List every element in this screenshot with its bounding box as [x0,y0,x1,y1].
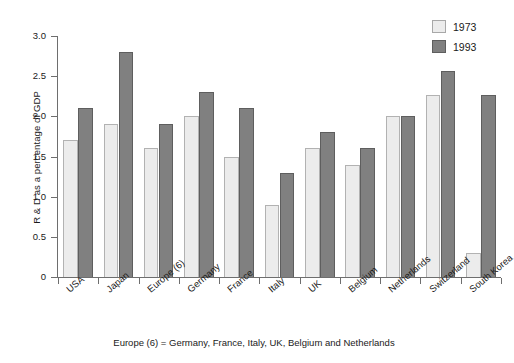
footnote: Europe (6) = Germany, France, Italy, UK,… [0,337,508,348]
x-tick [501,278,502,284]
bar-japan-1993 [119,52,134,277]
y-tick-label: 2.0 [0,111,46,121]
y-tick-label: 0 [0,272,46,282]
bar-germany-1993 [199,92,214,277]
bar-south-korea-1993 [481,95,496,277]
bar-switzerland-1993 [441,71,456,277]
y-tick [51,36,57,37]
y-tick [51,197,57,198]
legend-item-1973: 1973 [432,18,476,35]
bar-usa-1993 [78,108,93,277]
x-tick [179,278,180,284]
bar-switzerland-1973 [426,95,441,277]
y-tick-label: 0.5 [0,232,46,242]
y-tick-label: 3.0 [0,31,46,41]
x-tick [300,278,301,284]
bar-japan-1973 [104,124,119,277]
y-tick [51,237,57,238]
bar-belgium-1993 [360,148,375,277]
bar-netherlands-1973 [386,116,401,277]
y-tick-label: 1.5 [0,152,46,162]
x-tick [380,278,381,284]
y-tick [51,116,57,117]
bar-italy-1973 [265,205,280,277]
x-tick [461,278,462,284]
x-tick [259,278,260,284]
bar-usa-1973 [63,140,78,277]
bar-france-1973 [224,157,239,278]
y-tick [51,277,57,278]
y-tick-label: 1.0 [0,192,46,202]
bar-uk-1973 [305,148,320,277]
x-tick [219,278,220,284]
legend-label-1973: 1973 [453,21,476,33]
bar-netherlands-1993 [401,116,416,277]
x-tick-label: UK [306,278,323,295]
bar-uk-1993 [320,132,335,277]
bar-europe-6-1993 [159,124,174,277]
x-tick [58,278,59,284]
x-tick [340,278,341,284]
plot-area [58,36,501,277]
x-tick [98,278,99,284]
bar-italy-1993 [280,173,295,277]
bar-france-1993 [239,108,254,277]
bar-germany-1973 [184,116,199,277]
x-tick [139,278,140,284]
legend-swatch-1973 [432,20,446,33]
legend-swatch-1993 [432,40,446,53]
y-tick [51,157,57,158]
bar-europe-6-1973 [144,148,159,277]
y-tick-label: 2.5 [0,71,46,81]
legend-label-1993: 1993 [453,41,476,53]
bar-belgium-1973 [345,165,360,277]
legend: 1973 1993 [432,18,476,58]
legend-item-1993: 1993 [432,38,476,55]
y-tick [51,76,57,77]
x-tick [420,278,421,284]
